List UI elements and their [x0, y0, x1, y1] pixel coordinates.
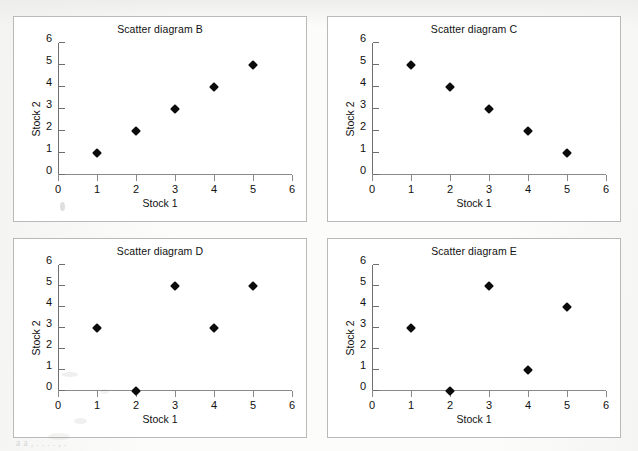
chart-title-b: Scatter diagram B [14, 23, 306, 35]
y-tick-label-d-5: 5 [46, 276, 52, 287]
x-tick-d-3 [175, 391, 176, 397]
data-point-b-5-5 [248, 60, 258, 70]
y-tick-label-c-3: 3 [360, 99, 366, 110]
data-point-c-2-4 [445, 82, 455, 92]
x-tick-d-4 [214, 391, 215, 397]
y-tick-d-5 [59, 285, 65, 286]
y-tick-label-b-5: 5 [46, 55, 52, 66]
x-tick-b-3 [175, 175, 176, 181]
y-tick-c-1 [373, 152, 379, 153]
y-tick-e-4 [373, 306, 379, 307]
y-axis-title-c: Stock 2 [344, 101, 356, 136]
scatter-chart-b: Scatter diagram B 01234560123456 Stock 1… [14, 17, 306, 221]
scatter-chart-c: Scatter diagram C 01234560123456 Stock 1… [328, 17, 620, 221]
y-tick-b-2 [59, 130, 65, 131]
y-tick-c-2 [373, 130, 379, 131]
x-tick-d-5 [253, 391, 254, 397]
x-tick-b-1 [97, 175, 98, 181]
x-tick-d-6 [292, 391, 293, 397]
y-tick-c-0 [373, 174, 379, 175]
y-tick-e-3 [373, 327, 379, 328]
x-tick-label-d-2: 2 [133, 400, 139, 411]
y-tick-label-d-0: 0 [46, 381, 52, 392]
x-tick-c-3 [489, 175, 490, 181]
x-tick-c-5 [567, 175, 568, 181]
y-axis-line-b [58, 43, 59, 175]
y-axis-line-d [58, 265, 59, 391]
y-tick-b-0 [59, 174, 65, 175]
y-tick-d-1 [59, 369, 65, 370]
y-tick-label-c-5: 5 [360, 55, 366, 66]
x-tick-e-1 [411, 391, 412, 397]
x-tick-e-4 [528, 391, 529, 397]
data-point-d-2-0 [131, 386, 141, 396]
y-axis-title-d: Stock 2 [30, 320, 42, 355]
y-tick-b-3 [59, 108, 65, 109]
x-tick-label-e-1: 1 [408, 400, 414, 411]
chart-panel-e: Scatter diagram E 01234560123456 Stock 1… [327, 238, 621, 438]
x-tick-c-6 [606, 175, 607, 181]
x-tick-b-0 [58, 175, 59, 181]
y-tick-d-3 [59, 327, 65, 328]
x-tick-label-b-4: 4 [211, 184, 217, 195]
x-tick-label-e-0: 0 [369, 400, 375, 411]
scatter-chart-e: Scatter diagram E 01234560123456 Stock 1… [328, 239, 620, 437]
data-point-e-4-1 [523, 365, 533, 375]
y-tick-c-3 [373, 108, 379, 109]
chart-title-d: Scatter diagram D [14, 245, 306, 257]
y-tick-d-6 [59, 264, 65, 265]
x-tick-label-d-1: 1 [94, 400, 100, 411]
x-tick-label-b-2: 2 [133, 184, 139, 195]
chart-panel-c: Scatter diagram C 01234560123456 Stock 1… [327, 16, 621, 222]
y-tick-label-e-6: 6 [360, 255, 366, 266]
y-axis-line-e [372, 265, 373, 391]
x-tick-label-b-3: 3 [172, 184, 178, 195]
y-tick-label-b-0: 0 [46, 165, 52, 176]
x-tick-c-4 [528, 175, 529, 181]
y-tick-label-d-1: 1 [46, 360, 52, 371]
x-tick-e-5 [567, 391, 568, 397]
y-tick-label-c-1: 1 [360, 143, 366, 154]
x-tick-label-b-1: 1 [94, 184, 100, 195]
x-axis-title-b: Stock 1 [14, 197, 306, 209]
x-tick-label-d-0: 0 [55, 400, 61, 411]
y-tick-label-e-2: 2 [360, 339, 366, 350]
data-point-d-4-3 [209, 323, 219, 333]
y-tick-e-0 [373, 390, 379, 391]
x-tick-label-d-6: 6 [289, 400, 295, 411]
data-point-d-1-3 [92, 323, 102, 333]
plot-area-b: 01234560123456 [58, 43, 292, 175]
y-tick-b-6 [59, 42, 65, 43]
x-tick-label-c-3: 3 [486, 184, 492, 195]
y-tick-b-4 [59, 86, 65, 87]
y-tick-c-6 [373, 42, 379, 43]
data-point-c-3-3 [484, 104, 494, 114]
y-tick-label-b-4: 4 [46, 77, 52, 88]
data-point-c-4-2 [523, 126, 533, 136]
y-tick-d-4 [59, 306, 65, 307]
chart-title-c: Scatter diagram C [328, 23, 620, 35]
y-tick-label-b-3: 3 [46, 99, 52, 110]
plot-area-c: 01234560123456 [372, 43, 606, 175]
y-axis-line-c [372, 43, 373, 175]
x-tick-e-0 [372, 391, 373, 397]
x-tick-d-1 [97, 391, 98, 397]
x-tick-label-b-6: 6 [289, 184, 295, 195]
x-axis-title-d: Stock 1 [14, 413, 306, 425]
x-tick-label-c-2: 2 [447, 184, 453, 195]
x-tick-b-5 [253, 175, 254, 181]
y-tick-label-c-2: 2 [360, 121, 366, 132]
scatter-chart-d: Scatter diagram D 01234560123456 Stock 1… [14, 239, 306, 437]
y-tick-e-1 [373, 369, 379, 370]
x-tick-label-e-5: 5 [564, 400, 570, 411]
data-point-e-2-0 [445, 386, 455, 396]
y-tick-label-c-6: 6 [360, 33, 366, 44]
data-point-e-1-3 [406, 323, 416, 333]
y-tick-d-0 [59, 390, 65, 391]
y-tick-label-d-4: 4 [46, 297, 52, 308]
y-axis-title-e: Stock 2 [344, 320, 356, 355]
x-tick-b-4 [214, 175, 215, 181]
y-tick-e-5 [373, 285, 379, 286]
y-tick-label-c-4: 4 [360, 77, 366, 88]
x-tick-label-c-0: 0 [369, 184, 375, 195]
